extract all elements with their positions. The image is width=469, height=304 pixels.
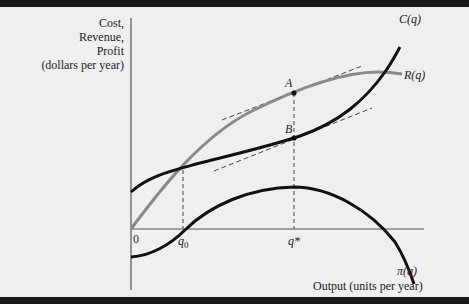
point-a-label: A <box>285 76 292 91</box>
cost-curve-label: C(q) <box>399 12 421 27</box>
cost-curve <box>131 47 400 192</box>
y-axis-label: Cost, Revenue, Profit (dollars per year) <box>41 16 124 72</box>
revenue-curve-label: R(q) <box>404 68 425 83</box>
bottom-border <box>0 297 469 304</box>
point-b-label: B <box>285 122 292 137</box>
q0-label: q0 <box>178 234 189 250</box>
origin-label: 0 <box>133 232 139 247</box>
profit-curve <box>131 187 414 284</box>
x-axis-label: Output (units per year) <box>313 279 423 294</box>
q0-subscript: 0 <box>184 240 189 250</box>
y-label-line: Profit <box>41 44 124 58</box>
y-label-line: Revenue, <box>41 30 124 44</box>
profit-curve-label: π(q) <box>397 264 417 279</box>
qstar-label: q* <box>288 234 300 249</box>
point-a-marker <box>291 90 296 95</box>
y-label-line: (dollars per year) <box>41 58 124 72</box>
y-label-line: Cost, <box>41 16 124 30</box>
